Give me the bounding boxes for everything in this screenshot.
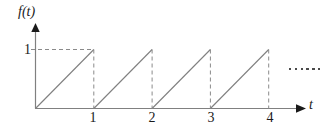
ellipsis-dot [289,68,291,70]
continuation-ellipsis [289,68,320,70]
ramp-segment-4 [210,50,268,109]
ramp-segment-1 [36,50,94,109]
x-tick-label-2: 2 [146,111,158,125]
ramp-segment-3 [152,50,210,109]
ellipsis-dot [318,68,320,70]
x-axis-arrowhead [296,104,306,112]
x-axis-label: t [309,98,313,112]
ellipsis-dot [306,68,308,70]
y-tick-label-1: 1 [20,43,31,57]
x-tick-label-1: 1 [87,111,99,125]
ellipsis-dot [295,68,297,70]
ellipsis-dot [312,68,314,70]
sawtooth-waveform-figure: f(t) t 1 1 2 3 4 [0,0,330,131]
ramp-segment-2 [94,50,152,109]
x-tick-label-3: 3 [205,111,217,125]
y-axis-arrowhead [31,23,39,32]
plot-canvas [0,0,330,131]
y-axis-label: f(t) [18,5,35,19]
x-tick-label-4: 4 [264,111,276,125]
ellipsis-dot [301,68,303,70]
